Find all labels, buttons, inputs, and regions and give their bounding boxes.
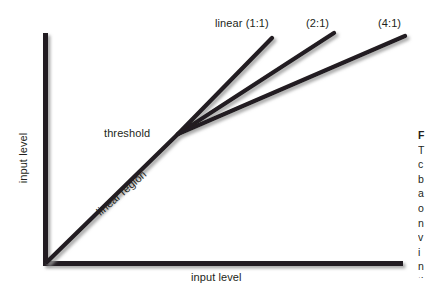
series-label-ratio-4-1: (4:1): [378, 17, 401, 29]
series-label-linear: linear (1:1): [215, 17, 269, 29]
axis-lines: [43, 33, 403, 264]
compressor-transfer-curve-figure: linear (1:1) (2:1) (4:1) threshold linea…: [0, 0, 436, 291]
y-axis-title: input level: [17, 126, 29, 190]
caption-bleed-line: i: [418, 245, 436, 260]
caption-bleed-line: n: [418, 259, 436, 274]
transfer-curves: [47, 33, 405, 262]
caption-bleed-line: v: [418, 230, 436, 245]
caption-bleed-line: n: [418, 216, 436, 231]
curve-ratio-2-1: [178, 33, 334, 134]
caption-bleed-line: b: [418, 172, 436, 187]
caption-bleed-line: T: [418, 143, 436, 158]
x-axis-title: input level: [191, 271, 242, 283]
caption-bleed-line: c: [418, 157, 436, 172]
caption-bleed-line: tl: [418, 274, 436, 278]
caption-bleed-column: F T c b a o n v i n tl: [418, 128, 436, 278]
curve-ratio-4-1: [178, 36, 405, 134]
caption-bleed-head: F: [418, 128, 436, 143]
caption-bleed-line: o: [418, 201, 436, 216]
chart-canvas: [0, 0, 436, 291]
series-label-ratio-2-1: (2:1): [306, 17, 329, 29]
threshold-annotation: threshold: [104, 127, 150, 139]
caption-bleed-line: a: [418, 186, 436, 201]
curve-linear-1-1: [47, 38, 272, 262]
